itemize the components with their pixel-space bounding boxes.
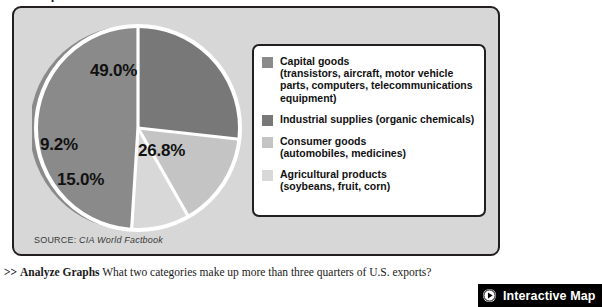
caption: >> Analyze Graphs What two categories ma… — [4, 265, 474, 279]
legend-detail-capital-goods-3: equipment) — [280, 92, 473, 104]
pie-slice-capital-goods — [32, 26, 138, 230]
legend-swatch-agricultural-products — [262, 170, 273, 181]
legend-swatch-capital-goods — [262, 57, 273, 68]
source-note: SOURCE: CIA World Factbook — [34, 235, 163, 245]
page-title-sliver: U.S. Exports — [0, 0, 599, 4]
legend: Capital goods (transistors, aircraft, mo… — [252, 44, 486, 217]
legend-item-consumer-goods: Consumer goods (automobiles, medicines) — [262, 135, 476, 159]
caption-question: What two categories make up more than th… — [102, 266, 431, 278]
legend-title-industrial-supplies: Industrial supplies (organic chemicals) — [280, 113, 474, 125]
legend-label-consumer-goods: Consumer goods (automobiles, medicines) — [280, 135, 406, 159]
legend-title-capital-goods: Capital goods — [280, 55, 349, 67]
caption-arrows: >> — [4, 266, 17, 278]
source-prefix: SOURCE: — [34, 235, 79, 245]
legend-swatch-industrial-supplies — [262, 115, 273, 126]
interactive-map-button[interactable]: Interactive Map — [478, 284, 602, 307]
page-title: U.S. Exports — [6, 0, 83, 2]
pie-slice-industrial-supplies — [138, 26, 240, 139]
legend-title-agricultural-products: Agricultural products — [280, 168, 387, 180]
legend-label-capital-goods: Capital goods (transistors, aircraft, mo… — [280, 55, 473, 104]
pie-chart-svg — [32, 22, 244, 234]
legend-item-capital-goods: Capital goods (transistors, aircraft, mo… — [262, 55, 476, 104]
pie-label-consumer-goods: 15.0% — [57, 170, 104, 190]
legend-title-consumer-goods: Consumer goods — [280, 135, 366, 147]
legend-detail-agricultural-products-1: (soybeans, fruit, corn) — [280, 180, 390, 192]
legend-item-agricultural-products: Agricultural products (soybeans, fruit, … — [262, 168, 476, 192]
caption-lead: Analyze Graphs — [20, 266, 100, 278]
interactive-map-label: Interactive Map — [503, 289, 596, 303]
legend-detail-consumer-goods-1: (automobiles, medicines) — [280, 147, 406, 159]
chart-panel: 49.0% 26.8% 9.2% 15.0% SOURCE: CIA World… — [12, 6, 500, 256]
legend-swatch-consumer-goods — [262, 137, 273, 148]
pie-label-agricultural-products: 9.2% — [40, 135, 78, 155]
pie-label-capital-goods: 49.0% — [90, 61, 137, 81]
play-circle-icon — [482, 288, 497, 303]
source-name: CIA World Factbook — [79, 235, 163, 245]
legend-detail-capital-goods-1: (transistors, aircraft, motor vehicle — [280, 67, 473, 79]
pie-label-industrial-supplies: 26.8% — [138, 141, 185, 161]
legend-detail-capital-goods-2: parts, computers, telecommunications — [280, 79, 473, 91]
legend-item-industrial-supplies: Industrial supplies (organic chemicals) — [262, 113, 476, 126]
pie-chart: 49.0% 26.8% 9.2% 15.0% — [32, 22, 244, 234]
legend-label-agricultural-products: Agricultural products (soybeans, fruit, … — [280, 168, 390, 192]
legend-label-industrial-supplies: Industrial supplies (organic chemicals) — [280, 113, 474, 125]
